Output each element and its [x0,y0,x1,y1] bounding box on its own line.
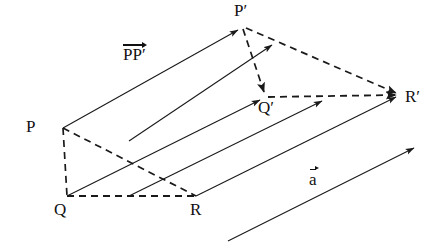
vertex-label-P: P [26,118,35,135]
dashed-triangle-PQR-prime [243,28,396,97]
edge-Pprime-Rprime [246,28,396,93]
vertex-label-R-prime: R′ [405,88,420,105]
translation-arrows [63,30,414,241]
arrow-Q-to-Qprime [67,100,260,196]
vector-overbar-group: PP′ [123,44,146,63]
overbar-arrowhead-icon [142,42,147,48]
vertex-label-R: R [190,201,201,218]
vector-a-overbar-group: a [309,168,317,188]
overbar-arrowhead-icon [315,166,319,170]
arrow-free-vector-a [228,148,414,241]
dashed-triangle-PQR [63,128,196,196]
arrow-P-to-Pprime [63,30,238,128]
vector-label-pp-prime: PP′ [123,44,146,63]
vertex-label-Q: Q [54,201,66,218]
translation-vector-diagram: P Q R P′ Q′ R′ PP′ a [0,0,428,243]
arrow-mid-upper [129,45,272,141]
edge-Qprime-Rprime [268,95,396,97]
vector-label-pp-prime-text: PP′ [123,45,146,64]
overbar-line [123,44,144,46]
vertex-label-Q-prime: Q′ [258,99,274,116]
edge-Pprime-Qprime [243,29,264,92]
vector-label-a-text: a [309,170,317,189]
vector-label-a: a [309,168,317,188]
edge-P-R [63,128,196,196]
arrow-R-to-Rprime [196,97,396,196]
edge-P-Q [63,128,67,196]
vertex-label-P-prime: P′ [234,2,247,19]
